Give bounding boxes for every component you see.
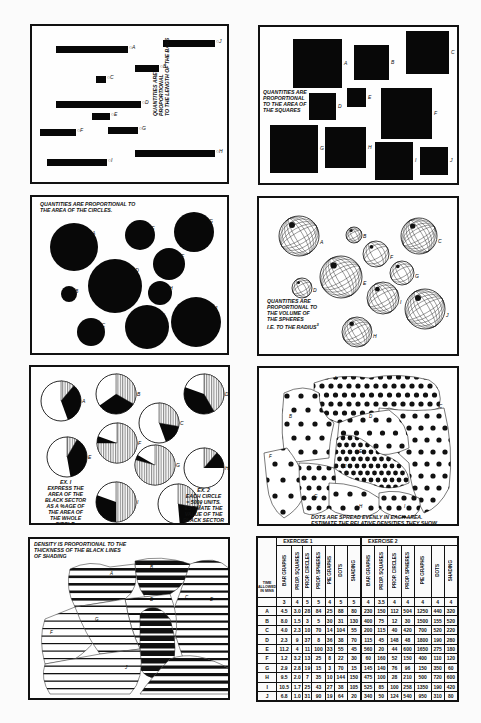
sphere: E [314,250,367,303]
table-cell: 4 [325,597,334,606]
column-header: SHADING [444,545,458,597]
panel-shading-density-map: ABCDEFGJ DENSITY IS PROPORTIONAL TO THE … [28,537,230,700]
table-cell: 230 [361,606,375,615]
table-cell: 3.2 [292,654,303,663]
column-header-label: PROP. SPHERES [405,552,410,589]
table-cell: 13 [303,654,312,663]
table-cell: 4 [292,644,303,653]
sphere: A [274,211,325,262]
table-row: H9.52.07351014415047510028210500720600 [257,673,458,682]
table-cell: 320 [444,606,458,615]
column-header-label: PROP. SPHERES [316,552,321,589]
column-header-label: PROP. SQUARES [295,552,300,590]
table-cell: 33 [325,644,334,653]
table-cell: 1.0 [292,692,303,701]
shading-region-label: F [50,630,53,635]
table-cell: 43 [312,682,325,691]
pie-label: F [138,440,142,446]
table-cell: 600 [401,644,414,653]
sphere-label: F [390,254,394,260]
column-header-label: BAR GRAPHS [282,555,287,586]
table-cell: 210 [401,673,414,682]
pie: C [139,403,184,443]
sphere-label: B [363,233,367,239]
column-header: DOTS [334,545,347,597]
column-header-label: PROP. SQUARES [379,552,384,590]
square [381,88,432,139]
pie: I [96,482,139,522]
sphere-label: A [319,239,324,245]
column-header: PROP. SQUARES [292,545,303,597]
bar-label: ○G [139,125,146,131]
square [420,147,448,175]
column-header: PROP. CIRCLES [388,545,401,597]
table-cell: 28 [303,606,312,615]
table-cell: 150 [375,606,388,615]
table-cell: 15 [312,663,325,672]
table-cell: 76 [388,663,401,672]
pie: B [96,374,141,414]
table-cell: 38 [334,635,347,644]
dots-caption: DOTS ARE SPREAD EVENLY IN EACH AREA. EST… [311,514,437,526]
table-cell: 720 [431,673,444,682]
table-cell: 48 [401,635,414,644]
bar-label: ○J [216,38,222,44]
circle-label: A [92,230,95,236]
table-cell: 280 [444,635,458,644]
column-header: PIE GRAPHS [414,545,431,597]
table-cell: 520 [431,625,444,634]
time-allowed-label: TIME ALLOWED IN MINS [258,581,276,593]
column-header-label: PROP. CIRCLES [392,553,397,588]
table-cell: 80 [347,606,361,615]
sphere: J [400,284,451,335]
pie: H [184,448,229,488]
spheres-area: ABCDEFGHIJ [259,198,459,356]
row-label: E [257,644,277,653]
dot-region-label: B [289,414,292,419]
column-header: SHADING [347,545,361,597]
circle [88,259,142,313]
pie-label: B [137,391,141,397]
sphere: C [396,213,442,259]
table-cell: 20 [347,692,361,701]
pie-label: E [88,454,92,460]
panel-pie-graphs: ABCDEFGHIJ EX. I EXPRESS THE AREA OF THE… [29,365,230,525]
row-label: G [257,663,277,672]
table-cell: 70 [312,625,325,634]
circle-label: D [135,267,139,273]
table-cell: 4 [361,597,375,606]
pie-label: I [137,499,139,505]
pie: E [47,437,92,477]
row-label: A [257,606,277,615]
column-header-label: SHADING [351,560,356,581]
table-cell: 1.5 [292,616,303,625]
table-cell: 540 [401,692,414,701]
table-cell: 420 [444,682,458,691]
table-cell: 70 [347,635,361,644]
table-cell: 28 [388,673,401,682]
table-cell: 100 [312,644,325,653]
table-cell: 350 [431,663,444,672]
table-cell: 15 [347,663,361,672]
table-cell: 120 [444,654,458,663]
table-cell: 40 [388,625,401,634]
sphere-label: C [438,238,442,244]
circles-caption: QUANTITIES ARE PROPORTIONAL TO THE AREA … [40,201,135,213]
circle-label: E [151,225,154,231]
pies-exercise2-caption: EX. 2 EACH CIRCLE = 5000 UNITS. ESTIMATE… [183,487,224,523]
bar-chart-area: ○A○B○C○D○E○F○G○H○I○J [32,26,229,184]
table-cell: 220 [444,625,458,634]
table-cell: 520 [444,616,458,625]
table-cell: 8 [312,635,325,644]
table-cell: 100 [375,673,388,682]
circle-label: H [169,285,173,291]
table-cell: 84 [312,606,325,615]
table-cell: 5 [303,597,312,606]
table-cell: 155 [431,616,444,625]
table-cell: 31 [303,692,312,701]
column-header-label: PIE GRAPHS [420,556,425,584]
table-cell: 11.2 [277,644,292,653]
table-cell: 2.8 [292,663,303,672]
bar [108,127,138,134]
square-label: H [368,144,372,150]
